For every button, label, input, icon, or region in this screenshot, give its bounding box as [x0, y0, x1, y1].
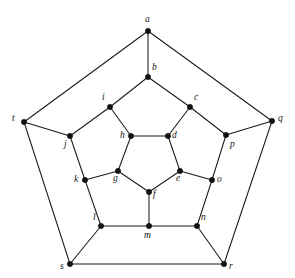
graph-edge-c-p	[190, 107, 226, 135]
vertex-label-l: l	[93, 213, 96, 223]
graph-vertex-q	[269, 118, 274, 123]
vertex-label-e: e	[176, 174, 180, 184]
vertex-label-h: h	[120, 131, 125, 141]
vertex-label-s: s	[60, 262, 64, 272]
graph-edge-a-t	[24, 31, 148, 122]
graph-vertex-k	[82, 177, 87, 182]
graph-vertex-s	[67, 261, 72, 266]
graph-vertex-i	[107, 104, 112, 109]
dodecahedral-graph-figure: abcdefghijklmnopqrst	[0, 0, 295, 278]
graph-edge-p-q	[226, 121, 272, 135]
vertex-label-n: n	[201, 213, 206, 223]
graph-edge-a-q	[148, 31, 272, 121]
vertex-label-d: d	[172, 131, 177, 141]
vertex-label-f: f	[153, 190, 156, 200]
graph-vertex-b	[145, 74, 150, 79]
graph-vertex-o	[209, 177, 214, 182]
vertex-label-j: j	[64, 140, 67, 150]
graph-vertex-r	[221, 261, 226, 266]
vertex-label-q: q	[278, 114, 283, 124]
graph-edge-e-o	[180, 171, 212, 180]
graph-edge-b-c	[148, 77, 190, 107]
graph-vertex-f	[146, 189, 151, 194]
graph-vertex-l	[98, 223, 103, 228]
graph-vertex-t	[21, 119, 26, 124]
graph-edge-f-g	[118, 171, 149, 192]
graph-edge-g-h	[118, 136, 131, 171]
graph-edge-d-e	[168, 136, 180, 171]
graph-vertex-n	[194, 223, 199, 228]
vertex-label-o: o	[217, 175, 222, 185]
vertex-label-p: p	[230, 140, 235, 150]
vertex-label-k: k	[74, 175, 78, 185]
vertex-label-m: m	[144, 231, 151, 241]
vertex-label-c: c	[194, 93, 198, 103]
vertex-label-i: i	[102, 93, 105, 103]
graph-edge-j-t	[24, 122, 70, 136]
graph-vertex-m	[146, 223, 151, 228]
graph-edge-i-j	[70, 107, 110, 136]
vertex-label-g: g	[113, 174, 118, 184]
vertex-label-t: t	[12, 114, 15, 124]
vertex-label-r: r	[229, 262, 233, 272]
graph-vertex-d	[165, 133, 170, 138]
graph-edge-n-r	[197, 226, 224, 264]
graph-vertex-j	[67, 133, 72, 138]
graph-vertex-p	[223, 132, 228, 137]
graph-vertex-h	[128, 133, 133, 138]
vertex-label-a: a	[145, 15, 150, 25]
graph-vertex-a	[145, 28, 150, 33]
graph-edge-b-i	[110, 77, 148, 107]
graph-vertex-c	[187, 104, 192, 109]
graph-edge-l-s	[70, 226, 101, 264]
vertex-label-b: b	[152, 63, 157, 73]
